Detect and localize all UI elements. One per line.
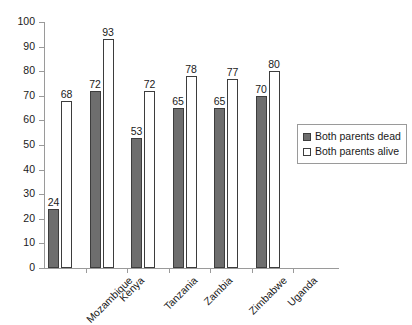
legend-item-both-parents-dead: Both parents dead <box>303 129 402 144</box>
y-axis-tick: 30 <box>39 194 45 195</box>
x-axis-tick <box>169 268 170 273</box>
y-axis-tick: 40 <box>39 170 45 171</box>
bar-value-label: 72 <box>144 78 156 90</box>
y-axis-tick-label: 10 <box>23 236 35 249</box>
legend-label-alive: Both parents alive <box>315 145 399 158</box>
bar-both-parents-dead: 70 <box>256 96 267 268</box>
y-axis-tick-label: 100 <box>17 15 35 28</box>
y-axis-tick: 20 <box>39 219 45 220</box>
bar-value-label: 80 <box>268 58 280 70</box>
bar-value-label: 24 <box>48 196 60 208</box>
legend-swatch-dead-icon <box>303 133 311 141</box>
x-axis-tick <box>86 268 87 273</box>
x-axis-line <box>44 268 339 269</box>
y-axis-tick-label: 40 <box>23 163 35 176</box>
chart-legend: Both parents dead Both parents alive <box>297 124 407 164</box>
y-axis-tick-label: 60 <box>23 113 35 126</box>
y-axis-tick-label: 80 <box>23 64 35 77</box>
y-axis-tick-label: 30 <box>23 187 35 200</box>
bar-both-parents-alive: 77 <box>227 79 238 268</box>
bar-both-parents-alive: 68 <box>61 101 72 268</box>
x-axis-category-label: Tanzania <box>161 274 199 312</box>
y-axis-tick: 80 <box>39 71 45 72</box>
bar-value-label: 77 <box>227 66 239 78</box>
bar-value-label: 78 <box>185 63 197 75</box>
y-axis-tick-label: 20 <box>23 212 35 225</box>
bar-both-parents-dead: 53 <box>131 138 142 268</box>
bar-value-label: 93 <box>102 26 114 38</box>
bar-group: 7080 <box>256 22 280 268</box>
bar-value-label: 68 <box>61 88 73 100</box>
bar-value-label: 65 <box>172 95 184 107</box>
legend-item-both-parents-alive: Both parents alive <box>303 144 402 159</box>
bar-group: 7293 <box>90 22 114 268</box>
y-axis-tick-label: 50 <box>23 138 35 151</box>
x-axis-category-label: Zambia <box>201 274 234 307</box>
bar-both-parents-dead: 65 <box>214 108 225 268</box>
bar-both-parents-dead: 65 <box>173 108 184 268</box>
legend-label-dead: Both parents dead <box>315 130 401 143</box>
x-axis-tick <box>293 268 294 273</box>
y-axis-tick: 50 <box>39 145 45 146</box>
bar-group: 6577 <box>214 22 238 268</box>
y-axis-tick: 60 <box>39 120 45 121</box>
bar-group: 5372 <box>131 22 155 268</box>
y-axis-tick: 90 <box>39 47 45 48</box>
bar-value-label: 72 <box>89 78 101 90</box>
legend-swatch-alive-icon <box>303 148 311 156</box>
bar-group: 2468 <box>48 22 72 268</box>
bar-group: 6578 <box>173 22 197 268</box>
x-axis-category-label: Zimbabwe <box>246 274 289 317</box>
y-axis-tick-label: 0 <box>29 261 35 274</box>
x-axis-category-label: Uganda <box>284 274 318 308</box>
x-axis-tick <box>210 268 211 273</box>
y-axis-tick: 10 <box>39 243 45 244</box>
bar-both-parents-dead: 72 <box>90 91 101 268</box>
bar-both-parents-alive: 78 <box>186 76 197 268</box>
bar-both-parents-dead: 24 <box>48 209 59 268</box>
bar-chart: 1009080706050403020100246872935372657865… <box>0 0 412 325</box>
x-axis-tick <box>252 268 253 273</box>
bar-value-label: 53 <box>131 125 143 137</box>
y-axis-tick: 0 <box>39 268 45 269</box>
bar-both-parents-alive: 80 <box>269 71 280 268</box>
x-axis-tick <box>127 268 128 273</box>
bar-both-parents-alive: 93 <box>103 39 114 268</box>
y-axis-tick: 100 <box>39 22 45 23</box>
plot-area: 1009080706050403020100246872935372657865… <box>44 22 293 268</box>
y-axis-tick: 70 <box>39 96 45 97</box>
bar-value-label: 65 <box>214 95 226 107</box>
y-axis-tick-label: 70 <box>23 89 35 102</box>
y-axis-tick-label: 90 <box>23 40 35 53</box>
bar-value-label: 70 <box>255 83 267 95</box>
bar-both-parents-alive: 72 <box>144 91 155 268</box>
